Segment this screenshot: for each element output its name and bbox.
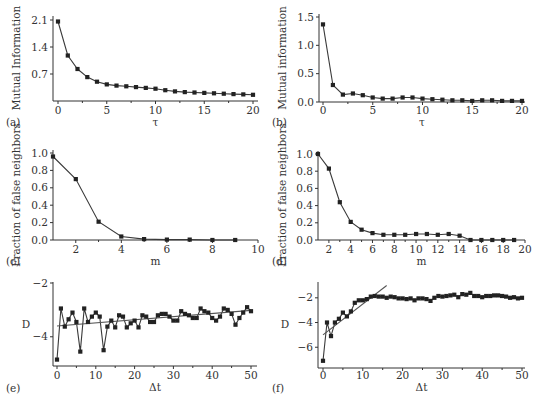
data-point (490, 98, 494, 102)
data-point (327, 167, 331, 171)
data-point (86, 320, 90, 324)
data-point (428, 299, 432, 303)
data-point (373, 294, 377, 298)
data-point (405, 297, 409, 301)
data-point (349, 309, 353, 313)
data-point (440, 98, 444, 102)
data-point (479, 238, 483, 242)
data-point (114, 84, 118, 88)
data-point (251, 93, 255, 97)
x-tick-label: 16 (475, 243, 489, 255)
x-tick-label: 10 (149, 104, 162, 116)
x-axis-label: m (417, 255, 427, 267)
data-point (121, 315, 125, 319)
data-point (456, 295, 460, 299)
data-point (97, 220, 101, 224)
x-tick-label: 30 (436, 369, 449, 381)
data-point (436, 294, 440, 298)
data-point (381, 295, 385, 299)
data-point (416, 296, 420, 300)
panel-b: 051015200.00.51.01.5τMutual information(… (272, 6, 529, 128)
data-point (102, 348, 106, 352)
data-point (85, 75, 89, 79)
y-axis-label: Mutual information (276, 6, 288, 110)
x-axis-label: m (151, 255, 161, 267)
data-point (389, 295, 393, 299)
data-point (444, 294, 448, 298)
panel-f: 01020304050−2−4−6ΔtD(f) (272, 282, 529, 394)
x-tick-label: 18 (497, 243, 510, 255)
data-point (436, 233, 440, 237)
data-point (105, 325, 109, 329)
data-point (397, 296, 401, 300)
data-point (179, 309, 183, 313)
x-tick-label: 2 (72, 243, 79, 255)
data-point (66, 53, 70, 57)
x-tick-label: 12 (431, 243, 444, 255)
data-point (425, 232, 429, 236)
y-tick-label: 0.6 (31, 181, 48, 193)
panel-a: 051015200.71.42.1τMutual Information(a) (6, 6, 260, 128)
y-tick-label: 0.8 (31, 164, 48, 176)
data-point (241, 92, 245, 96)
panel-label: (f) (272, 382, 284, 394)
y-axis-label: Fraction of false neighbors (10, 123, 22, 267)
data-point (430, 97, 434, 101)
data-point (210, 316, 214, 320)
data-point (410, 95, 414, 99)
x-tick-label: 50 (244, 369, 257, 381)
data-point (136, 325, 140, 329)
data-point (210, 238, 214, 242)
data-point (460, 98, 464, 102)
x-tick-label: 8 (391, 243, 398, 255)
data-point (74, 177, 78, 181)
data-point (370, 231, 374, 235)
x-tick-label: 15 (466, 104, 479, 116)
data-point (500, 294, 504, 298)
y-tick-label: 0.2 (296, 216, 313, 228)
x-axis-label: Δt (416, 381, 429, 393)
data-point (480, 295, 484, 299)
panel-label: (c) (6, 255, 20, 267)
data-point (188, 238, 192, 242)
fit-line (323, 285, 387, 334)
data-point (337, 317, 341, 321)
data-point (226, 308, 230, 312)
data-point (63, 325, 67, 329)
data-point (392, 233, 396, 237)
data-point (140, 313, 144, 317)
data-point (420, 296, 424, 300)
x-tick-label: 20 (396, 369, 409, 381)
data-point (214, 319, 218, 323)
data-point (233, 238, 237, 242)
x-tick-label: 20 (518, 243, 531, 255)
x-tick-label: 0 (320, 104, 327, 116)
y-tick-label: 0.0 (297, 96, 314, 108)
y-axis-label: Mutual Information (10, 6, 22, 111)
data-point (341, 93, 345, 97)
data-point (67, 317, 71, 321)
x-tick-label: 15 (198, 104, 211, 116)
y-tick-label: −4 (33, 330, 49, 342)
series-line (53, 157, 235, 241)
x-axis-label: τ (153, 116, 159, 128)
y-tick-label: −2 (33, 277, 48, 289)
data-point (233, 323, 237, 327)
data-point (230, 312, 234, 316)
x-tick-label: 6 (369, 243, 376, 255)
y-tick-label: 2.1 (31, 14, 48, 26)
data-point (353, 301, 357, 305)
y-tick-label: 0.7 (31, 68, 48, 80)
data-point (148, 320, 152, 324)
x-tick-label: 10 (416, 104, 429, 116)
data-point (90, 315, 94, 319)
data-point (360, 228, 364, 232)
panel-c: 2468100.00.20.40.60.81.0mFraction of fal… (6, 123, 265, 267)
data-point (191, 316, 195, 320)
data-point (420, 97, 424, 101)
data-point (341, 311, 345, 315)
data-point (171, 319, 175, 323)
data-point (480, 98, 484, 102)
data-point (222, 306, 226, 310)
data-point (448, 293, 452, 297)
